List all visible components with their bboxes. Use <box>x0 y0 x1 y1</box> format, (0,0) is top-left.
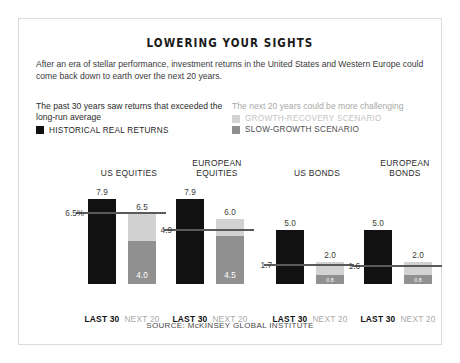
legend-swatch-icon <box>36 126 44 134</box>
legend-item-label: HISTORICAL REAL RETURNS <box>49 126 169 135</box>
bar-group-bars: 5.0LAST 300.82.0NEXT 201.6 <box>350 187 460 284</box>
legend-swatch-icon <box>232 126 240 134</box>
bar-scenario-stack: 4.06.5NEXT 20 <box>127 187 157 284</box>
bar-group-title: EUROPEANBONDS <box>350 159 460 178</box>
reference-line <box>352 265 442 267</box>
legend-item-slow-growth-scenario: SLOW-GROWTH SCENARIO <box>232 125 432 134</box>
bar-value-label: 6.5 <box>119 203 165 212</box>
bar-rect <box>176 199 204 284</box>
bar-value-label: 7.9 <box>79 188 125 197</box>
bar-group-title-line: EQUITIES <box>162 169 272 179</box>
legend-scenarios: The next 20 years could be more challeng… <box>232 101 432 134</box>
bar-segment-value-label: 4.0 <box>128 271 156 280</box>
chart-title: LOWERING YOUR SIGHTS <box>19 36 441 50</box>
reference-line-value: 1.6 <box>326 262 360 271</box>
bar-rect <box>364 230 392 284</box>
legend-right-heading: The next 20 years could be more challeng… <box>232 101 432 112</box>
reference-line <box>164 229 254 231</box>
bar-rect: 4.0 <box>128 214 156 284</box>
bar-value-label: 5.0 <box>267 219 313 228</box>
bar-value-label: 2.0 <box>307 251 353 260</box>
bar-segment-slow-growth: 0.8 <box>404 275 432 284</box>
chart-figure: LOWERING YOUR SIGHTS After an era of ste… <box>18 18 442 345</box>
reference-line <box>76 212 166 214</box>
bar-value-label: 6.0 <box>207 208 253 217</box>
reference-line-value: 6.5% <box>50 209 84 218</box>
bar-group-title: EUROPEANEQUITIES <box>162 159 272 178</box>
legend-swatch-icon <box>232 115 240 123</box>
bar-value-label: 7.9 <box>167 188 213 197</box>
chart-source: SOURCE: McKINSEY GLOBAL INSTITUTE <box>19 321 441 330</box>
legend-item-historical-real-returns: HISTORICAL REAL RETURNS <box>36 126 241 135</box>
bar-group-title-line: BONDS <box>350 169 460 179</box>
bar-segment-slow-growth: 4.0 <box>128 241 156 284</box>
legend-item-growth-recovery-scenario: GROWTH-RECOVERY SCENARIO <box>232 114 432 123</box>
legend-historical: The past 30 years saw returns that excee… <box>36 101 241 135</box>
bar-segment-value-label: 0.8 <box>316 277 344 283</box>
bar-rect <box>276 230 304 284</box>
reference-line-value: 1.7 <box>238 261 272 270</box>
chart-plot-area: Last 100 years average return US EQUITIE… <box>19 159 443 304</box>
bar-segment-slow-growth: 0.8 <box>316 275 344 284</box>
legend-item-label: SLOW-GROWTH SCENARIO <box>245 125 359 134</box>
bar-segment-value-label: 4.5 <box>216 271 244 280</box>
chart-subtitle: After an era of stellar performance, inv… <box>36 59 428 82</box>
bar-segment-value-label: 0.8 <box>404 277 432 283</box>
legend-item-label: GROWTH-RECOVERY SCENARIO <box>245 114 382 123</box>
bar-historical-real-returns: 5.0LAST 30 <box>275 187 305 284</box>
bar-group-european-equities: EUROPEANEQUITIES7.9LAST 304.56.0NEXT 204… <box>162 159 272 304</box>
bar-value-label: 2.0 <box>395 251 441 260</box>
bar-value-label: 5.0 <box>355 219 401 228</box>
legend-left-heading: The past 30 years saw returns that excee… <box>36 101 241 124</box>
bar-historical-real-returns: 7.9LAST 30 <box>87 187 117 284</box>
bar-group-european-bonds: EUROPEANBONDS5.0LAST 300.82.0NEXT 201.6 <box>350 159 460 304</box>
bar-historical-real-returns: 7.9LAST 30 <box>175 187 205 284</box>
bar-scenario-stack: 0.82.0NEXT 20 <box>403 187 433 284</box>
bar-segment-growth-recovery <box>216 219 244 235</box>
reference-line-value: 4.9 <box>138 226 172 235</box>
bar-historical-real-returns: 5.0LAST 30 <box>363 187 393 284</box>
